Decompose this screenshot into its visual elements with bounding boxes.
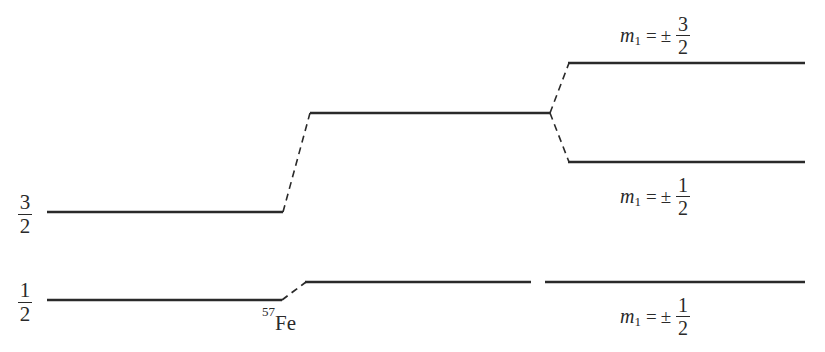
spin-label-one-half: 1 2 (8, 280, 42, 326)
equals-sign: = (646, 25, 657, 47)
fraction-numerator: 3 (676, 14, 690, 35)
quantum-number-label-m-one-half-ground: m1 = ± 1 2 (620, 295, 690, 339)
connector-excited-split-lower (550, 113, 569, 162)
fraction-denominator: 2 (676, 316, 690, 338)
plus-minus-sign: ± (661, 186, 671, 208)
energy-levels-svg (0, 0, 825, 352)
fraction-numerator: 1 (676, 175, 690, 196)
plus-minus-sign: ± (661, 25, 671, 47)
m-variable: m (620, 185, 634, 208)
fraction-denominator: 2 (676, 35, 690, 57)
m-subscript: 1 (634, 194, 641, 210)
fraction-one-half: 1 2 (676, 175, 690, 219)
fraction-numerator: 3 (18, 192, 33, 214)
equals-sign: = (646, 306, 657, 328)
fraction-denominator: 2 (18, 302, 33, 325)
plus-minus-sign: ± (661, 306, 671, 328)
m-subscript: 1 (634, 314, 641, 330)
fraction-numerator: 1 (676, 295, 690, 316)
connector-excited-split-upper (550, 63, 569, 113)
fraction-three-halves: 3 2 (676, 14, 690, 58)
energy-level-diagram: 3 2 1 2 57Fe m1 = ± 3 2 m1 = ± 1 2 m1 = (0, 0, 825, 352)
isotope-label-fe57: 57Fe (262, 310, 296, 336)
m-variable: m (620, 24, 634, 47)
connector-excited-isomer-shift (283, 113, 310, 212)
spin-label-three-halves: 3 2 (8, 192, 42, 238)
quantum-number-label-m-three-halves: m1 = ± 3 2 (620, 14, 690, 58)
m-variable: m (620, 305, 634, 328)
isotope-symbol: Fe (275, 311, 296, 335)
fraction-one-half: 1 2 (676, 295, 690, 339)
equals-sign: = (646, 186, 657, 208)
fraction-three-halves: 3 2 (18, 192, 33, 238)
connector-ground-isomer-shift (282, 282, 306, 300)
isotope-mass-number: 57 (262, 304, 275, 319)
m-subscript: 1 (634, 33, 641, 49)
fraction-one-half: 1 2 (18, 280, 33, 326)
quantum-number-label-m-one-half-excited: m1 = ± 1 2 (620, 175, 690, 219)
fraction-numerator: 1 (18, 280, 33, 302)
fraction-denominator: 2 (18, 214, 33, 237)
fraction-denominator: 2 (676, 196, 690, 218)
